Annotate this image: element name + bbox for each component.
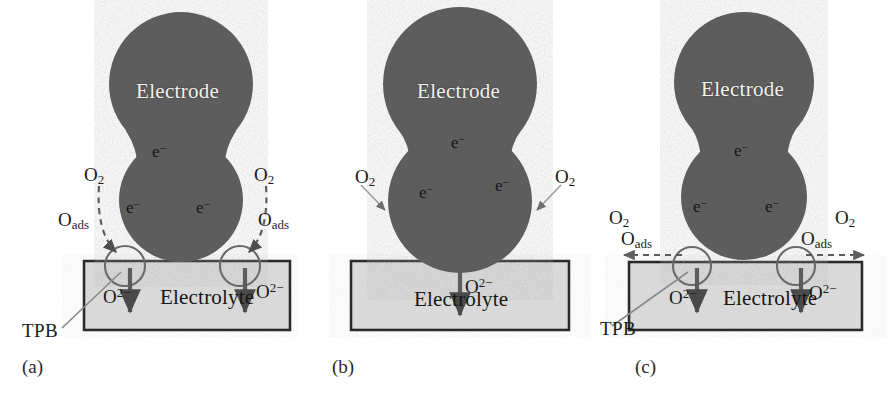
electron-label-c-1: e− [734, 140, 748, 161]
panel-c: Electrode e− e− e− O2 O2 Oads Oads Elect… [598, 0, 896, 397]
oxygen-adsorbed-label-right-a: Oads [258, 209, 289, 233]
electron-label-a-2: e− [126, 197, 140, 218]
oxygen-adsorbed-label-right-c: Oads [801, 228, 832, 252]
electron-label-b-1: e− [451, 132, 465, 153]
electrode-label-b: Electrode [417, 79, 500, 104]
electron-label-a-1: e− [152, 141, 166, 162]
panel-caption-b: (b) [332, 356, 354, 378]
oxygen-gas-label-right-c: O2 [835, 207, 855, 231]
oxygen-gas-label-left-a: O2 [84, 164, 104, 188]
electrode-label-a: Electrode [136, 79, 219, 104]
electron-label-b-3: e− [495, 175, 509, 196]
panel-caption-a: (a) [22, 356, 43, 378]
electrolyte-label-c: Electrolyte [723, 286, 817, 311]
electron-label-b-2: e− [419, 182, 433, 203]
oxygen-gas-label-left-b: O2 [355, 166, 375, 190]
electrolyte-label-a: Electrolyte [160, 285, 254, 310]
oxide-ion-label-right-c: O2− [809, 281, 836, 304]
tpb-label-c: TPB [600, 318, 636, 340]
oxide-ion-label-right-a: O2− [256, 280, 283, 303]
oxygen-adsorbed-label-left-a: Oads [58, 209, 89, 233]
panel-caption-c: (c) [635, 356, 656, 378]
panel-b-graphic [299, 0, 597, 397]
tpb-label-a: TPB [22, 320, 58, 342]
electron-label-c-3: e− [765, 196, 779, 217]
oxygen-adsorbed-label-left-c: Oads [621, 228, 652, 252]
electrode-label-c: Electrode [701, 77, 784, 102]
oxide-ion-label-center-b: O2− [465, 275, 492, 298]
electrolyte-label-b: Electrolyte [414, 287, 508, 312]
oxygen-path-arrow-left-a [99, 186, 116, 252]
panel-c-graphic [598, 0, 896, 397]
electron-label-a-3: e− [196, 197, 210, 218]
oxide-ion-label-left-c: O2− [669, 286, 696, 309]
oxide-ion-label-left-a: O2− [103, 285, 130, 308]
electrode-shape-c [674, 12, 814, 260]
panel-b: Electrode e− e− e− O2 O2 Electrolyte O2−… [299, 0, 597, 397]
electrode-shape-a [109, 12, 253, 262]
oxygen-gas-label-right-a: O2 [254, 164, 274, 188]
panel-a: Electrode e− e− e− O2 O2 Oads Oads Elect… [0, 0, 298, 397]
electron-label-c-2: e− [693, 196, 707, 217]
oxygen-gas-label-right-b: O2 [555, 166, 575, 190]
